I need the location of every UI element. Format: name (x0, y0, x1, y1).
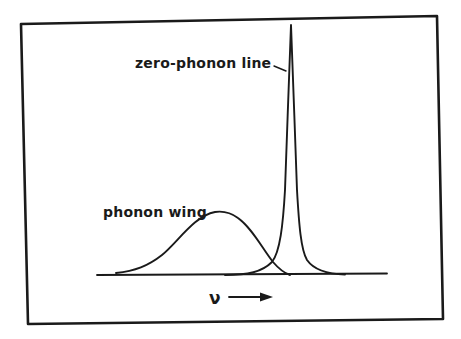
arrow-head (260, 293, 273, 302)
phonon-wing-label: phonon wing (103, 204, 207, 220)
frequency-axis-label: ν (209, 288, 221, 308)
spectrum-diagram: zero-phonon line phonon wing ν (0, 0, 461, 339)
zpl-leader-line (274, 66, 286, 71)
phonon-wing-curve (116, 212, 290, 275)
zero-phonon-line-label: zero-phonon line (135, 55, 271, 71)
